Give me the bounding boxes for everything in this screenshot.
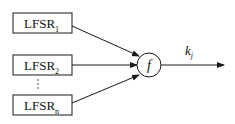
lfsr-1-label: LFSR	[24, 16, 55, 31]
lfsr-n-box: LFSRn	[13, 95, 72, 116]
lfsr-2-box: LFSR2	[13, 55, 72, 76]
lfsr-1-box: LFSR1	[13, 13, 72, 34]
output-subscript: j	[190, 51, 194, 60]
lfsr-n-subscript: n	[55, 107, 59, 116]
output-keystream-label: kj	[185, 43, 194, 60]
ellipsis-dots	[37, 79, 39, 89]
lfsr-2-label: LFSR	[24, 58, 55, 73]
lfsr-combiner-diagram: LFSR1 LFSR2 LFSRn f kj	[0, 0, 235, 124]
arrow-lfsr-1-to-f	[72, 26, 139, 56]
lfsr-n-label: LFSR	[24, 98, 55, 113]
combiner-function-node: f	[137, 53, 161, 77]
lfsr-1-subscript: 1	[55, 25, 59, 34]
lfsr-2-subscript: 2	[55, 67, 59, 76]
diagram-canvas: LFSR1 LFSR2 LFSRn f kj	[0, 0, 235, 124]
arrow-lfsr-n-to-f	[72, 75, 139, 103]
